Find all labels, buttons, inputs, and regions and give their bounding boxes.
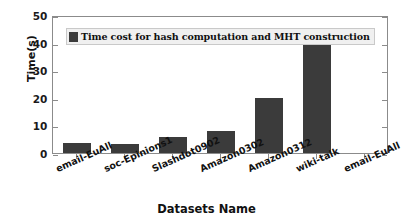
y-axis-label: Time(s) — [25, 24, 38, 94]
y-tick-mark — [382, 45, 387, 46]
y-tick-mark — [53, 155, 58, 156]
y-tick-mark — [382, 72, 387, 73]
legend: Time cost for hash computation and MHT c… — [66, 28, 375, 45]
y-tick-mark — [53, 72, 58, 73]
y-tick-mark — [53, 100, 58, 101]
y-tick-mark — [382, 100, 387, 101]
y-tick-label: 10 — [22, 120, 47, 132]
x-axis-label: Datasets Name — [0, 202, 413, 216]
y-tick-mark — [53, 127, 58, 128]
y-tick-label: 20 — [22, 93, 47, 105]
y-tick-mark — [53, 17, 58, 18]
bar — [303, 31, 331, 153]
y-tick-mark — [382, 17, 387, 18]
y-tick-label: 40 — [22, 38, 47, 50]
y-tick-label: 50 — [22, 10, 47, 22]
legend-swatch-icon — [69, 32, 78, 42]
legend-label: Time cost for hash computation and MHT c… — [81, 31, 370, 42]
y-tick-mark — [382, 127, 387, 128]
y-tick-mark — [53, 45, 58, 46]
y-tick-label: 30 — [22, 65, 47, 77]
bar-chart-figure: Time(s) 01020304050 email-EuAllsoc-Epini… — [0, 0, 413, 224]
y-tick-label: 0 — [22, 148, 47, 160]
